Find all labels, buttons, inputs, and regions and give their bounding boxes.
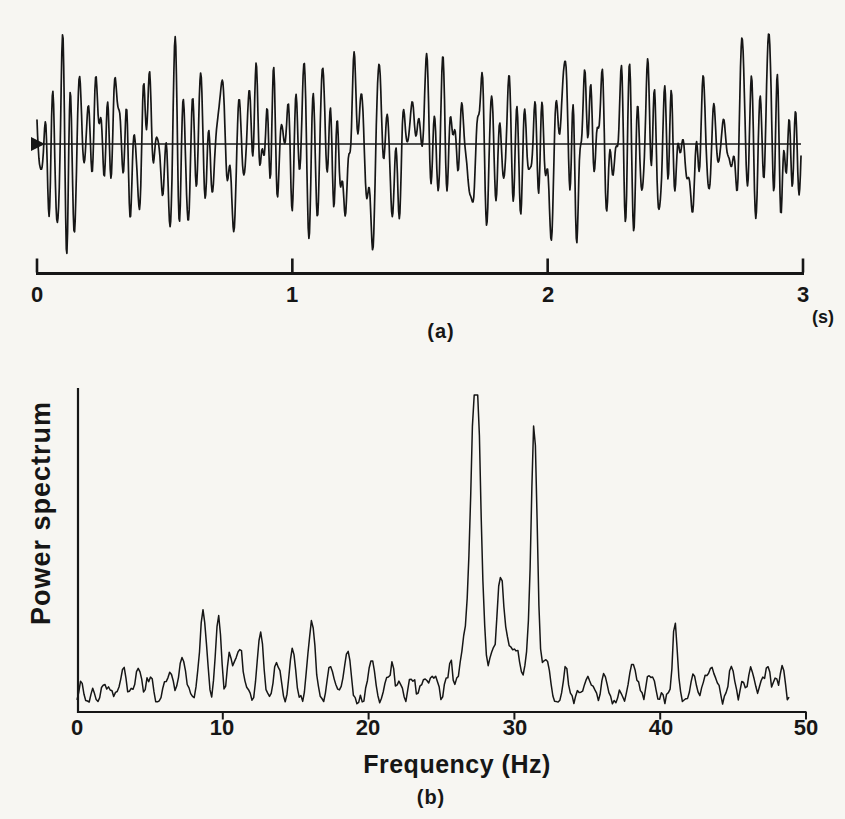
time-tick-label-1: 1 (286, 284, 298, 306)
figure-canvas (0, 0, 845, 819)
power-spectrum-axis-label: Power spectrum (28, 401, 55, 625)
freq-tick-label-30: 30 (503, 717, 527, 739)
figure: 0 1 2 3 (s) (a) Power spectrum 0 10 20 3… (0, 0, 845, 819)
freq-tick-label-20: 20 (356, 717, 380, 739)
panel-b-caption: (b) (417, 787, 446, 807)
freq-tick-label-40: 40 (649, 717, 673, 739)
time-tick-label-3: 3 (797, 284, 809, 306)
time-axis-unit-label: (s) (812, 308, 834, 326)
time-tick-label-0: 0 (31, 284, 43, 306)
freq-tick-label-0: 0 (71, 717, 83, 739)
frequency-axis-label: Frequency (Hz) (363, 752, 551, 777)
time-tick-label-2: 2 (542, 284, 554, 306)
freq-tick-label-50: 50 (794, 717, 818, 739)
panel-a-caption: (a) (427, 321, 454, 341)
spectrum-trace (77, 395, 789, 704)
freq-tick-label-10: 10 (210, 717, 234, 739)
